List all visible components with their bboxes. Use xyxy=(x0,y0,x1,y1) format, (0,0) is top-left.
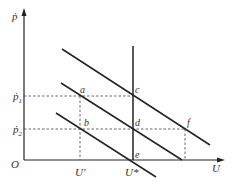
point-c-label: c xyxy=(135,84,140,95)
curves xyxy=(56,46,210,177)
origin-label: O xyxy=(11,158,19,170)
p1-label: ṗ1 xyxy=(12,90,22,105)
point-b-label: b xyxy=(84,117,89,128)
x-axis-label: U xyxy=(212,162,221,174)
short-run-phillips-curve-bottom xyxy=(56,113,156,177)
u-prime-label: U' xyxy=(75,166,86,178)
y-axis-label: ṗ xyxy=(11,10,18,22)
axis-labels: ṗ U O xyxy=(11,10,221,174)
y-axis-arrow-icon xyxy=(22,8,27,16)
point-a-label: a xyxy=(80,84,85,95)
axes xyxy=(22,8,226,163)
u-star-label: U* xyxy=(125,166,139,178)
point-d-label: d xyxy=(135,117,141,128)
guide-lines xyxy=(24,96,185,160)
p2-label: ṗ2 xyxy=(12,123,23,138)
point-e-label: e xyxy=(135,149,140,160)
x-tick-labels: U' U* xyxy=(75,166,139,178)
phillips-curve-diagram: ṗ U O ṗ1 ṗ2 U' U* a b c d e f xyxy=(0,0,234,188)
point-f-label: f xyxy=(187,117,191,128)
y-tick-labels: ṗ1 ṗ2 xyxy=(12,90,23,138)
